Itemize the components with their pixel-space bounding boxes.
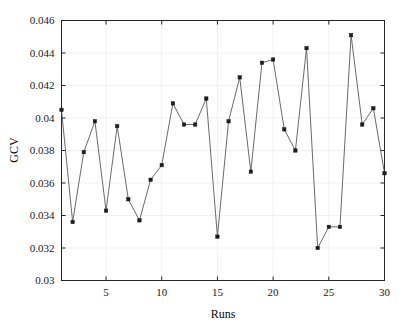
data-point-marker xyxy=(115,124,118,127)
x-tick-label: 10 xyxy=(156,286,168,298)
y-tick-label: 0.034 xyxy=(30,209,55,221)
data-point-marker xyxy=(294,149,297,152)
data-point-marker xyxy=(283,128,286,131)
y-tick-labels: 0.030.0320.0340.0360.0380.040.0420.0440.… xyxy=(30,14,55,286)
data-point-marker xyxy=(60,108,63,111)
y-tick-label: 0.03 xyxy=(35,274,55,286)
x-tick-label: 20 xyxy=(268,286,280,298)
data-point-marker xyxy=(138,219,141,222)
y-tick-label: 0.046 xyxy=(30,14,55,26)
y-tick-label: 0.038 xyxy=(30,144,55,156)
data-point-marker xyxy=(383,172,386,175)
data-point-marker xyxy=(271,58,274,61)
data-point-marker xyxy=(327,225,330,228)
data-point-marker xyxy=(349,33,352,36)
x-tick-label: 25 xyxy=(323,286,335,298)
data-point-marker xyxy=(338,225,341,228)
data-point-marker xyxy=(249,170,252,173)
data-point-marker xyxy=(216,235,219,238)
data-point-marker xyxy=(71,220,74,223)
gcv-series-markers xyxy=(60,33,386,249)
x-axis-title: Runs xyxy=(211,307,236,321)
data-point-marker xyxy=(205,97,208,100)
data-point-marker xyxy=(361,123,364,126)
data-point-marker xyxy=(149,178,152,181)
data-point-marker xyxy=(171,102,174,105)
data-point-marker xyxy=(160,163,163,166)
data-point-marker xyxy=(260,61,263,64)
data-point-marker xyxy=(372,107,375,110)
x-tick-labels: 51015202530 xyxy=(103,286,390,298)
x-tick-label: 15 xyxy=(212,286,224,298)
y-tick-label: 0.036 xyxy=(30,177,55,189)
data-point-marker xyxy=(316,246,319,249)
data-point-marker xyxy=(305,46,308,49)
y-tick-label: 0.044 xyxy=(30,47,55,59)
y-axis-title: GCV xyxy=(7,137,21,163)
gcv-vs-runs-chart: 0.030.0320.0340.0360.0380.040.0420.0440.… xyxy=(0,0,406,328)
data-point-marker xyxy=(238,76,241,79)
y-tick-label: 0.042 xyxy=(30,79,55,91)
gcv-series-line xyxy=(62,35,385,248)
data-point-marker xyxy=(227,120,230,123)
y-tick-label: 0.04 xyxy=(35,112,55,124)
data-point-marker xyxy=(93,120,96,123)
chart-canvas: 0.030.0320.0340.0360.0380.040.0420.0440.… xyxy=(0,0,406,328)
data-point-marker xyxy=(82,150,85,153)
data-point-marker xyxy=(104,209,107,212)
gridlines-layer xyxy=(62,21,385,281)
data-point-marker xyxy=(127,198,130,201)
data-point-marker xyxy=(193,123,196,126)
data-point-marker xyxy=(182,123,185,126)
x-tick-label: 5 xyxy=(103,286,109,298)
y-tick-label: 0.032 xyxy=(30,242,55,254)
x-tick-label: 30 xyxy=(379,286,391,298)
